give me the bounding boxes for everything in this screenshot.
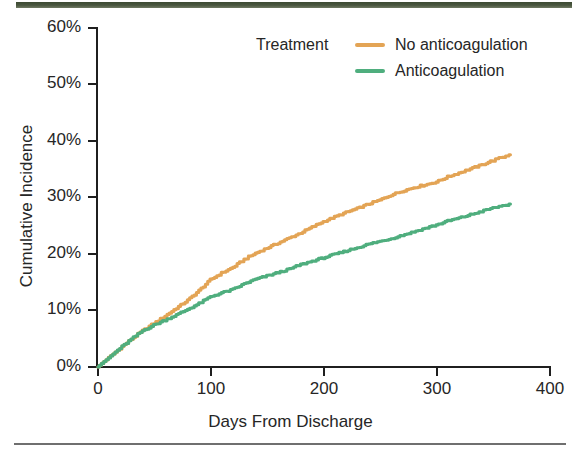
legend-title: Treatment <box>256 36 328 54</box>
legend-entry-label: Anticoagulation <box>395 62 504 80</box>
legend-entry-list: No anticoagulationAnticoagulation <box>355 32 528 84</box>
legend-entry: No anticoagulation <box>355 32 528 58</box>
legend-line-swatch-icon <box>355 69 385 73</box>
legend-entry-label: No anticoagulation <box>395 36 528 54</box>
curve-anticoagulation <box>98 204 510 367</box>
legend-line-swatch-icon <box>355 43 385 47</box>
legend-entry: Anticoagulation <box>355 58 528 84</box>
curve-no-anticoagulation <box>98 155 510 367</box>
figure-container: 0%10%20%30%40%50%60% 0100200300400 Days … <box>0 0 581 453</box>
